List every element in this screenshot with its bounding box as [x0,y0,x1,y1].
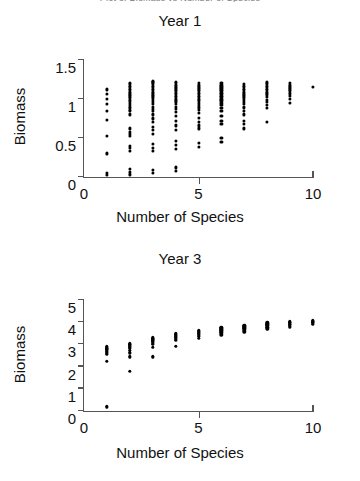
data-point [151,147,154,150]
data-point [128,150,131,153]
y-axis-tick [78,387,84,389]
data-point [105,103,108,106]
data-point [243,119,246,122]
data-point [105,93,108,96]
y-axis-tick [78,137,84,139]
chart-panel-year-3: Year 3 Biomass 0123450510 Number of Spec… [0,248,360,481]
data-point [128,168,131,171]
y-axis-tick [78,365,84,367]
data-point [151,143,154,146]
data-point [128,355,131,358]
data-point [151,129,154,132]
x-axis-tick-label: 0 [80,420,88,435]
x-axis-tick-label: 0 [80,186,88,201]
x-axis-end-cap [312,171,314,178]
figure-root: Plot of Biomass vs Number of Species Yea… [0,0,360,481]
data-point [243,122,246,125]
data-point [220,110,223,113]
data-point [243,106,246,109]
data-point [174,111,177,114]
data-point [243,113,246,116]
data-point [151,117,154,120]
data-point [105,109,108,112]
data-point [105,88,108,91]
y-axis-label-year-3: Biomass [11,320,28,390]
data-point [105,405,108,408]
data-point [289,97,292,100]
data-point [174,166,177,169]
x-axis-tick-label: 10 [305,420,322,435]
data-point [174,129,177,132]
data-point [174,344,177,347]
data-point [151,168,154,171]
y-axis-tick [78,343,84,345]
data-point [266,121,269,124]
data-point [128,113,131,116]
x-axis-label-year-1: Number of Species [0,208,360,225]
data-point [197,111,200,114]
chart-title-year-3: Year 3 [0,250,360,267]
data-point [289,101,292,104]
y-axis-tick [78,299,84,301]
data-point [151,172,154,175]
data-point [197,141,200,144]
data-point [197,124,200,127]
data-point [311,86,314,89]
x-axis-tick-label: 5 [194,420,202,435]
plot-area-year-3: 0123450510 [83,300,313,412]
data-point [220,122,223,125]
data-point [128,351,131,354]
y-axis-tick [78,410,84,412]
x-axis-end-cap [312,405,314,412]
y-axis-tick [78,176,84,178]
x-axis-tick-label: 5 [194,186,202,201]
x-axis-tick-label: 10 [305,186,322,201]
data-point [197,127,200,130]
data-point [174,169,177,172]
data-point [151,355,154,358]
data-point [128,127,131,130]
plot-area-year-1: 00.511.50510 [83,60,313,178]
data-point [174,115,177,118]
data-point [105,135,108,138]
data-point [105,359,108,362]
data-point [174,119,177,122]
data-point [266,104,269,107]
data-point [220,107,223,110]
data-point [151,113,154,116]
y-axis-label-year-1: Biomass [11,82,28,152]
data-point [105,152,108,155]
x-axis-tick [199,177,201,184]
y-axis-tick [78,98,84,100]
x-axis-label-year-3: Number of Species [0,444,360,461]
data-point [151,133,154,136]
data-point [174,140,177,143]
data-point [220,136,223,139]
data-point [174,124,177,127]
data-point [220,119,223,122]
data-point [151,121,154,124]
data-point [174,143,177,146]
y-axis-tick [78,321,84,323]
data-point [220,115,223,118]
y-axis-tick [78,59,84,61]
x-axis-tick [199,411,201,418]
data-point [197,146,200,149]
data-point [151,345,154,348]
data-point [197,121,200,124]
cut-off-figure-title: Plot of Biomass vs Number of Species [0,0,360,2]
data-point [151,126,154,129]
data-point [243,127,246,130]
data-point [151,150,154,153]
chart-panel-year-1: Year 1 Biomass 00.511.50510 Number of Sp… [0,8,360,248]
data-point [243,109,246,112]
data-point [105,97,108,100]
data-point [128,369,131,372]
data-point [174,147,177,150]
data-point [220,140,223,143]
data-point [266,107,269,110]
data-point [105,118,108,121]
chart-title-year-1: Year 1 [0,12,360,29]
data-point [197,116,200,119]
